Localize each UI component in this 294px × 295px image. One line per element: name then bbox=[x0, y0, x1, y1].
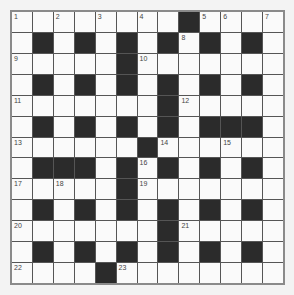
answer-cell[interactable] bbox=[221, 200, 241, 220]
answer-cell[interactable] bbox=[242, 54, 262, 74]
answer-cell[interactable] bbox=[263, 75, 283, 95]
answer-cell[interactable] bbox=[179, 179, 199, 199]
answer-cell[interactable]: 17 bbox=[12, 179, 32, 199]
answer-cell[interactable] bbox=[242, 221, 262, 241]
answer-cell[interactable] bbox=[33, 12, 53, 32]
answer-cell[interactable] bbox=[179, 54, 199, 74]
answer-cell[interactable] bbox=[158, 54, 178, 74]
answer-cell[interactable] bbox=[138, 117, 158, 137]
answer-cell[interactable] bbox=[263, 138, 283, 158]
answer-cell[interactable] bbox=[75, 12, 95, 32]
answer-cell[interactable]: 7 bbox=[263, 12, 283, 32]
answer-cell[interactable] bbox=[117, 96, 137, 116]
answer-cell[interactable] bbox=[200, 138, 220, 158]
answer-cell[interactable]: 12 bbox=[179, 96, 199, 116]
answer-cell[interactable] bbox=[242, 12, 262, 32]
answer-cell[interactable] bbox=[117, 138, 137, 158]
answer-cell[interactable] bbox=[96, 33, 116, 53]
answer-cell[interactable] bbox=[242, 138, 262, 158]
answer-cell[interactable] bbox=[242, 96, 262, 116]
answer-cell[interactable]: 3 bbox=[96, 12, 116, 32]
answer-cell[interactable] bbox=[75, 54, 95, 74]
answer-cell[interactable] bbox=[221, 263, 241, 283]
answer-cell[interactable]: 1 bbox=[12, 12, 32, 32]
answer-cell[interactable] bbox=[96, 179, 116, 199]
answer-cell[interactable] bbox=[33, 138, 53, 158]
answer-cell[interactable] bbox=[221, 54, 241, 74]
answer-cell[interactable] bbox=[33, 96, 53, 116]
answer-cell[interactable]: 18 bbox=[54, 179, 74, 199]
answer-cell[interactable] bbox=[263, 54, 283, 74]
answer-cell[interactable] bbox=[75, 221, 95, 241]
answer-cell[interactable]: 8 bbox=[179, 33, 199, 53]
answer-cell[interactable] bbox=[12, 242, 32, 262]
answer-cell[interactable] bbox=[179, 242, 199, 262]
answer-cell[interactable] bbox=[138, 96, 158, 116]
answer-cell[interactable] bbox=[96, 138, 116, 158]
answer-cell[interactable] bbox=[158, 263, 178, 283]
answer-cell[interactable] bbox=[138, 75, 158, 95]
answer-cell[interactable]: 13 bbox=[12, 138, 32, 158]
answer-cell[interactable] bbox=[33, 54, 53, 74]
answer-cell[interactable] bbox=[263, 221, 283, 241]
answer-cell[interactable] bbox=[138, 242, 158, 262]
answer-cell[interactable] bbox=[117, 12, 137, 32]
answer-cell[interactable] bbox=[221, 221, 241, 241]
answer-cell[interactable] bbox=[221, 96, 241, 116]
answer-cell[interactable]: 23 bbox=[117, 263, 137, 283]
answer-cell[interactable] bbox=[263, 158, 283, 178]
answer-cell[interactable]: 14 bbox=[158, 138, 178, 158]
answer-cell[interactable] bbox=[96, 200, 116, 220]
answer-cell[interactable]: 4 bbox=[138, 12, 158, 32]
answer-cell[interactable] bbox=[54, 96, 74, 116]
answer-cell[interactable] bbox=[75, 263, 95, 283]
answer-cell[interactable] bbox=[263, 179, 283, 199]
answer-cell[interactable] bbox=[242, 263, 262, 283]
answer-cell[interactable] bbox=[263, 263, 283, 283]
answer-cell[interactable] bbox=[54, 54, 74, 74]
answer-cell[interactable] bbox=[221, 75, 241, 95]
answer-cell[interactable] bbox=[179, 158, 199, 178]
answer-cell[interactable] bbox=[12, 200, 32, 220]
answer-cell[interactable] bbox=[96, 158, 116, 178]
answer-cell[interactable] bbox=[33, 179, 53, 199]
answer-cell[interactable] bbox=[263, 117, 283, 137]
answer-cell[interactable] bbox=[54, 200, 74, 220]
answer-cell[interactable] bbox=[33, 263, 53, 283]
answer-cell[interactable] bbox=[263, 96, 283, 116]
answer-cell[interactable]: 20 bbox=[12, 221, 32, 241]
answer-cell[interactable] bbox=[242, 179, 262, 199]
answer-cell[interactable]: 9 bbox=[12, 54, 32, 74]
answer-cell[interactable] bbox=[75, 138, 95, 158]
answer-cell[interactable] bbox=[96, 75, 116, 95]
answer-cell[interactable] bbox=[138, 200, 158, 220]
answer-cell[interactable]: 16 bbox=[138, 158, 158, 178]
answer-cell[interactable] bbox=[12, 158, 32, 178]
answer-cell[interactable] bbox=[221, 33, 241, 53]
answer-cell[interactable] bbox=[75, 96, 95, 116]
answer-cell[interactable] bbox=[221, 179, 241, 199]
answer-cell[interactable] bbox=[96, 221, 116, 241]
answer-cell[interactable] bbox=[54, 75, 74, 95]
answer-cell[interactable] bbox=[12, 33, 32, 53]
answer-cell[interactable] bbox=[96, 242, 116, 262]
answer-cell[interactable] bbox=[138, 263, 158, 283]
answer-cell[interactable] bbox=[263, 33, 283, 53]
answer-cell[interactable] bbox=[138, 33, 158, 53]
answer-cell[interactable] bbox=[179, 75, 199, 95]
answer-cell[interactable]: 21 bbox=[179, 221, 199, 241]
answer-cell[interactable] bbox=[221, 158, 241, 178]
answer-cell[interactable] bbox=[179, 263, 199, 283]
answer-cell[interactable] bbox=[158, 12, 178, 32]
answer-cell[interactable] bbox=[179, 138, 199, 158]
answer-cell[interactable] bbox=[54, 221, 74, 241]
answer-cell[interactable] bbox=[200, 221, 220, 241]
answer-cell[interactable] bbox=[96, 117, 116, 137]
answer-cell[interactable] bbox=[54, 263, 74, 283]
answer-cell[interactable] bbox=[179, 117, 199, 137]
answer-cell[interactable] bbox=[96, 54, 116, 74]
answer-cell[interactable] bbox=[221, 242, 241, 262]
answer-cell[interactable] bbox=[200, 179, 220, 199]
answer-cell[interactable] bbox=[75, 179, 95, 199]
answer-cell[interactable] bbox=[263, 200, 283, 220]
